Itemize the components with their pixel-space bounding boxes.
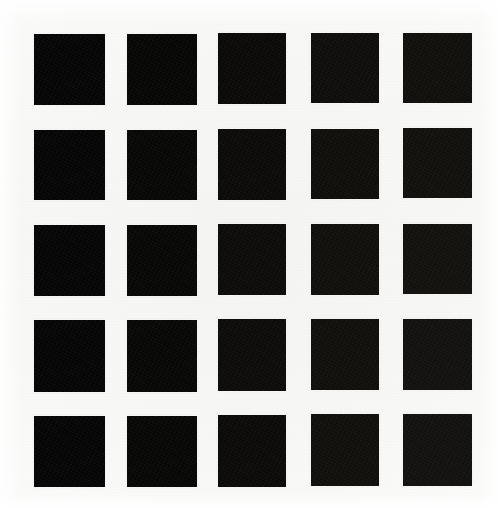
square-scan-grain <box>311 33 379 103</box>
square-scan-grain <box>218 224 286 295</box>
square-scan-grain <box>311 129 379 199</box>
grid-square <box>34 225 105 296</box>
square-scan-grain <box>403 33 472 103</box>
grid-square <box>127 34 197 105</box>
grid-square <box>403 414 472 486</box>
square-scan-grain <box>34 34 105 105</box>
grid-square <box>403 319 472 390</box>
grid-square <box>311 319 379 390</box>
grid-square <box>218 129 286 200</box>
grid-square <box>218 415 286 487</box>
square-scan-grain <box>34 225 105 296</box>
square-scan-grain <box>311 414 379 486</box>
square-scan-grain <box>127 320 197 392</box>
grid-square <box>311 33 379 103</box>
grid-square <box>127 130 197 200</box>
grid-square <box>311 414 379 486</box>
square-scan-grain <box>403 319 472 390</box>
grid-square <box>218 224 286 295</box>
square-scan-grain <box>127 416 197 487</box>
grid-square <box>127 320 197 392</box>
square-scan-grain <box>218 129 286 200</box>
square-scan-grain <box>218 33 286 104</box>
square-scan-grain <box>34 416 105 487</box>
grid-square <box>311 224 379 295</box>
grid-square <box>34 416 105 487</box>
square-scan-grain <box>311 224 379 295</box>
grid-square <box>34 130 105 200</box>
grid-square <box>34 320 105 392</box>
square-scan-grain <box>311 319 379 390</box>
grid-square <box>218 33 286 104</box>
grid-square <box>403 224 472 294</box>
square-scan-grain <box>403 414 472 486</box>
square-scan-grain <box>218 319 286 391</box>
grid-square <box>403 128 472 198</box>
square-scan-grain <box>127 130 197 200</box>
square-scan-grain <box>34 320 105 392</box>
square-scan-grain <box>218 415 286 487</box>
grid-square <box>127 225 197 296</box>
grid-square <box>218 319 286 391</box>
grid-square <box>403 33 472 103</box>
grid-square <box>34 34 105 105</box>
square-scan-grain <box>127 34 197 105</box>
scanned-test-pattern-image <box>0 0 498 508</box>
square-grid <box>0 0 498 508</box>
square-scan-grain <box>34 130 105 200</box>
grid-square <box>311 129 379 199</box>
square-scan-grain <box>127 225 197 296</box>
grid-square <box>127 416 197 487</box>
square-scan-grain <box>403 224 472 294</box>
square-scan-grain <box>403 128 472 198</box>
